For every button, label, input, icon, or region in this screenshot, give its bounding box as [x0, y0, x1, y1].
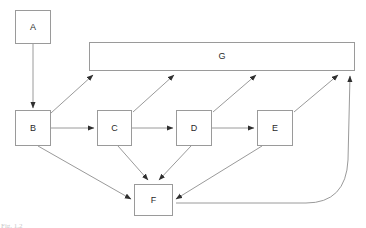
node-f[interactable]: F — [134, 184, 173, 216]
figure-caption: Fig. 1.2 — [1, 222, 23, 228]
edge-c-to-g — [133, 75, 174, 112]
node-b[interactable]: B — [15, 110, 51, 146]
node-e[interactable]: E — [257, 110, 293, 146]
edge-d-to-f — [159, 146, 191, 180]
edge-e-to-g — [294, 75, 338, 112]
node-d-label: D — [191, 124, 198, 133]
node-e-label: E — [272, 124, 278, 133]
node-c[interactable]: C — [97, 110, 132, 146]
node-a[interactable]: A — [15, 10, 51, 44]
node-g[interactable]: G — [89, 42, 355, 71]
node-g-label: G — [218, 52, 225, 61]
node-c-label: C — [111, 124, 118, 133]
node-b-label: B — [30, 124, 36, 133]
edge-c-to-f — [118, 146, 148, 180]
edge-e-to-f — [176, 146, 262, 199]
node-a-label: A — [30, 23, 36, 32]
edge-d-to-g — [213, 75, 256, 112]
diagram-canvas: A B C D E F G Fig. 1.2 — [0, 0, 366, 228]
edge-b-to-g — [51, 75, 93, 113]
node-d[interactable]: D — [176, 110, 212, 146]
node-f-label: F — [151, 196, 157, 205]
edge-b-to-f — [38, 146, 131, 199]
